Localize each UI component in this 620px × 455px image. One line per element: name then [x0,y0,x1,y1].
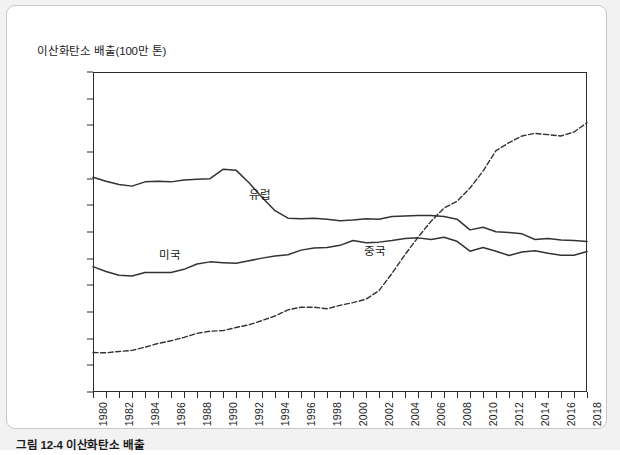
x-tick-mark [132,392,133,398]
series-annotation-china: 중국 [364,242,386,258]
x-tick-label: 2004 [409,402,421,426]
x-tick-label: 2000 [357,402,369,426]
x-tick-label: 2006 [435,402,447,426]
x-tick-mark [327,392,328,398]
figure-caption: 그림 12-4 이산화탄소 배출 [16,436,144,452]
x-tick-mark [145,392,146,398]
x-tick-label: 1986 [175,402,187,426]
x-tick-mark [119,392,120,398]
x-tick-label: 1982 [123,402,135,426]
x-tick-mark [184,392,185,398]
x-tick-mark [470,392,471,398]
x-tick-label: 1998 [331,402,343,426]
x-tick-mark [366,392,367,398]
x-tick-label: 1988 [201,402,213,426]
x-tick-label: 1990 [227,402,239,426]
x-tick-mark [171,392,172,398]
x-tick-mark [93,392,94,398]
x-tick-mark [353,392,354,398]
x-tick-mark [535,392,536,398]
x-tick-label: 1992 [253,402,265,426]
x-tick-mark [444,392,445,398]
x-tick-mark [236,392,237,398]
x-tick-label: 1996 [305,402,317,426]
x-tick-mark [340,392,341,398]
series-annotation-europe: 유럽 [249,186,271,202]
x-tick-mark [314,392,315,398]
figure-card: 이산화탄소 배출(100만 톤) 01000200030004000500060… [6,5,607,429]
x-tick-mark [288,392,289,398]
x-tick-mark [561,392,562,398]
x-tick-label: 2014 [539,402,551,426]
x-tick-mark [509,392,510,398]
x-tick-label: 1984 [149,402,161,426]
x-tick-mark [431,392,432,398]
x-tick-label: 2012 [513,402,525,426]
x-tick-mark [392,392,393,398]
x-tick-mark [262,392,263,398]
x-tick-mark [522,392,523,398]
x-tick-mark [301,392,302,398]
x-tick-mark [197,392,198,398]
x-tick-mark [158,392,159,398]
x-tick-mark [483,392,484,398]
x-tick-mark [106,392,107,398]
x-tick-label: 2018 [591,402,603,426]
x-tick-mark [405,392,406,398]
series-annotation-us: 미국 [159,246,181,262]
x-tick-label: 2002 [383,402,395,426]
x-tick-label: 1980 [97,402,109,426]
x-tick-mark [379,392,380,398]
x-tick-mark [587,392,588,398]
x-tick-mark [457,392,458,398]
x-tick-mark [249,392,250,398]
x-tick-label: 2010 [487,402,499,426]
x-tick-label: 1994 [279,402,291,426]
x-tick-label: 2008 [461,402,473,426]
x-tick-mark [275,392,276,398]
x-tick-mark [418,392,419,398]
x-axis: 1980198219841986198819901992199419961998… [7,6,620,455]
x-tick-mark [574,392,575,398]
x-tick-label: 2016 [565,402,577,426]
x-tick-mark [496,392,497,398]
x-tick-mark [210,392,211,398]
x-tick-mark [223,392,224,398]
x-tick-mark [548,392,549,398]
